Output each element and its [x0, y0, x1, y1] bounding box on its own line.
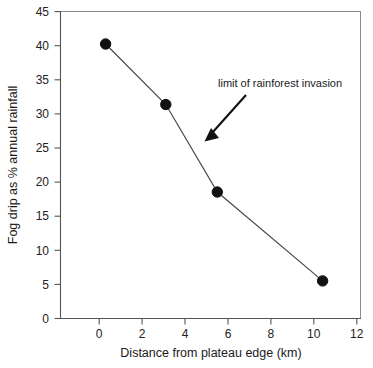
- y-tick-label-20: 20: [36, 175, 50, 189]
- y-tick-label-10: 10: [36, 244, 50, 258]
- y-tick-label-40: 40: [36, 39, 50, 53]
- y-axis-title: Fog drip as % annual rainfall: [6, 86, 20, 244]
- y-tick-label-0: 0: [42, 312, 49, 326]
- x-tick-label-6: 6: [225, 327, 232, 341]
- data-point-3: [212, 187, 222, 197]
- x-tick-label-0: 0: [96, 327, 103, 341]
- data-point-4: [317, 276, 327, 286]
- y-tick-label-15: 15: [36, 209, 50, 223]
- x-tick-label-2: 2: [139, 327, 146, 341]
- chart-background: [0, 0, 373, 368]
- data-point-2: [161, 99, 171, 109]
- x-tick-label-8: 8: [268, 327, 275, 341]
- y-tick-label-25: 25: [36, 141, 50, 155]
- fog-drip-line-chart: 0 5 10 15 20 25 30 35 40 45 0 2 4 6 8: [0, 0, 373, 368]
- data-point-1: [100, 39, 110, 49]
- y-tick-label-35: 35: [36, 73, 50, 87]
- x-axis-title: Distance from plateau edge (km): [120, 346, 301, 360]
- x-tick-label-10: 10: [307, 327, 321, 341]
- chart-page: 0 5 10 15 20 25 30 35 40 45 0 2 4 6 8: [0, 0, 373, 368]
- x-tick-label-12: 12: [350, 327, 364, 341]
- x-tick-label-4: 4: [182, 327, 189, 341]
- y-tick-label-45: 45: [36, 5, 50, 19]
- y-tick-label-5: 5: [42, 278, 49, 292]
- y-tick-label-30: 30: [36, 107, 50, 121]
- annotation-label: limit of rainforest invasion: [218, 77, 342, 89]
